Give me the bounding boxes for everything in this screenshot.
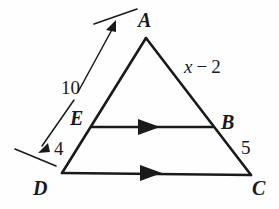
ten-dimension-arrow: [78, 20, 116, 92]
ab-expression-number: 2: [211, 56, 221, 77]
vertex-label-b: B: [221, 112, 234, 132]
dc-arrow-mark: [140, 165, 162, 181]
ae-measure-label: 10: [61, 78, 80, 97]
ab-expression-label: x−2: [184, 57, 221, 76]
vertex-label-d: D: [33, 178, 47, 198]
vertex-label-e: E: [70, 108, 83, 128]
side-ad: [62, 38, 146, 173]
vertex-label-a: A: [138, 10, 151, 30]
ed-measure-label: 4: [54, 139, 64, 158]
bc-measure-label: 5: [241, 138, 251, 157]
triangle-adc: [62, 38, 251, 175]
vertex-label-c: C: [252, 178, 265, 198]
eb-arrow-mark: [138, 119, 160, 135]
ab-expression-operator: −: [196, 56, 207, 77]
ab-expression-variable: x: [184, 56, 192, 77]
geometry-figure: A B C D E 10 4 x−2 5: [0, 0, 279, 209]
